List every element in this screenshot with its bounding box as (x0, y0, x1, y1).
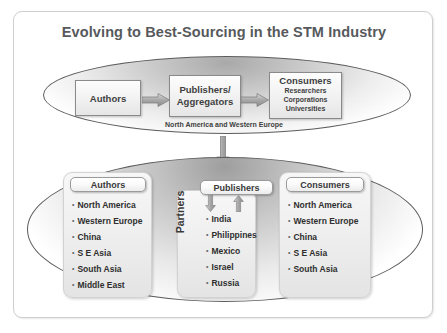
list-item: North America (288, 197, 358, 213)
list-item: South Asia (288, 261, 358, 277)
top-node-publishers-line1: Publishers/ (179, 84, 230, 96)
up-block-arrow-icon (233, 195, 244, 212)
page-title: Evolving to Best-Sourcing in the STM Ind… (14, 24, 434, 40)
list-item: China (72, 229, 142, 245)
list-item: Western Europe (288, 213, 358, 229)
top-node-consumers-item-researchers: Researchers (284, 86, 326, 95)
bottom-header-authors: Authors (70, 177, 146, 192)
list-item: China (288, 229, 358, 245)
bottom-header-consumers: Consumers (286, 177, 364, 192)
list-item: Middle East (72, 277, 142, 293)
top-ellipse-caption: North America and Western Europe (14, 121, 434, 128)
top-node-consumers: Consumers Researchers Corporations Unive… (269, 72, 342, 119)
right-block-arrow-icon (241, 93, 269, 107)
top-node-consumers-item-universities: Universities (286, 104, 326, 113)
top-node-consumers-item-corporations: Corporations (284, 95, 328, 104)
list-item: S E Asia (288, 245, 358, 261)
bottom-header-publishers: Publishers (200, 180, 273, 195)
list-item: S E Asia (72, 245, 142, 261)
bottom-list-authors: North America Western Europe China S E A… (72, 197, 142, 293)
list-item: Russia (206, 275, 257, 291)
top-node-authors-label: Authors (90, 93, 126, 104)
top-node-consumers-label: Consumers (279, 75, 331, 86)
list-item: South Asia (72, 261, 142, 277)
bottom-list-consumers: North America Western Europe China S E A… (288, 197, 358, 277)
list-item: Western Europe (72, 213, 142, 229)
right-block-arrow-icon (142, 93, 170, 107)
slide-frame: Evolving to Best-Sourcing in the STM Ind… (13, 11, 433, 318)
top-node-authors: Authors (75, 80, 141, 116)
list-item: North America (72, 197, 142, 213)
partners-side-label: Partners (174, 182, 186, 242)
down-block-arrow-icon (205, 195, 216, 212)
list-item: Philippines (206, 227, 257, 243)
list-item: India (206, 211, 257, 227)
top-node-publishers-line2: Aggregators (177, 96, 233, 108)
list-item: Mexico (206, 243, 257, 259)
bottom-list-partners: India Philippines Mexico Israel Russia (206, 211, 257, 291)
top-node-publishers-aggregators: Publishers/ Aggregators (169, 75, 241, 117)
list-item: Israel (206, 259, 257, 275)
